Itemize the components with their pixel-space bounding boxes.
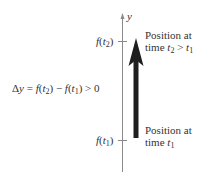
top-note-line1: Position at: [145, 29, 193, 41]
tick-label-f-t2: f(t2): [96, 35, 113, 47]
top-note: Position at time t2 > t1: [145, 29, 193, 53]
bottom-note: Position at time t1: [145, 124, 192, 148]
top-note-line2: time t2 > t1: [145, 41, 193, 53]
bottom-note-line1: Position at: [145, 124, 192, 136]
delta-y-label: Δy = f(t2) − f(t1) > 0: [12, 82, 100, 94]
displacement-arrow-shaft: [134, 58, 139, 138]
bottom-note-line2: time t1: [145, 136, 192, 148]
y-axis-arrowhead-icon: [121, 13, 125, 19]
tick-label-f-t1: f(t1): [96, 134, 113, 146]
y-axis-label: y: [127, 10, 132, 22]
